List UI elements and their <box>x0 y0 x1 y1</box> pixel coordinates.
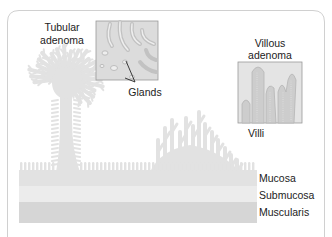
crypt <box>92 162 94 171</box>
twig <box>53 50 54 56</box>
crypt <box>144 162 146 171</box>
crypt <box>74 112 80 113</box>
crypt <box>74 120 80 121</box>
crypt <box>52 112 58 113</box>
crypt <box>192 162 194 171</box>
crypt <box>52 124 58 125</box>
crypt <box>240 162 242 171</box>
crypt <box>84 162 86 171</box>
gland <box>102 51 108 55</box>
crypt <box>100 162 102 171</box>
crypt <box>120 162 122 171</box>
crypt <box>74 164 80 165</box>
crypt <box>244 162 246 171</box>
crypt <box>74 100 80 101</box>
crypt <box>232 162 234 171</box>
crypt <box>40 162 42 171</box>
crypt <box>140 162 142 171</box>
crypt <box>52 148 58 149</box>
villous-adenoma-label: Villous <box>255 37 286 49</box>
crypt <box>52 116 58 117</box>
crypt <box>180 162 182 171</box>
crypt <box>80 162 82 171</box>
tubular-inset <box>96 21 158 82</box>
crypt <box>74 132 80 133</box>
crypt <box>124 162 126 171</box>
crypt <box>220 162 222 171</box>
crypt <box>168 162 170 171</box>
twig <box>74 52 75 58</box>
muscularis-layer <box>19 202 257 223</box>
mucosa-label: Mucosa <box>259 172 296 184</box>
crypt <box>132 162 134 171</box>
crypt <box>74 136 80 137</box>
villous-inset <box>238 62 302 123</box>
crypt <box>52 162 54 171</box>
crypt <box>188 162 190 171</box>
crypt <box>112 162 114 171</box>
twig <box>75 64 76 70</box>
crypt <box>184 162 186 171</box>
crypt <box>148 162 150 171</box>
crypt <box>52 152 58 153</box>
crypt <box>152 162 154 171</box>
crypt <box>74 144 80 145</box>
villi-label: Villi <box>248 127 264 139</box>
crypt <box>216 162 218 171</box>
crypt <box>204 162 206 171</box>
crypt <box>74 104 80 105</box>
submucosa-label: Submucosa <box>259 189 315 201</box>
crypt <box>36 162 38 171</box>
glands-label: Glands <box>128 86 161 98</box>
crypt <box>224 162 226 171</box>
polyp-core <box>52 67 80 99</box>
crypt <box>44 162 46 171</box>
crypt <box>74 156 80 157</box>
twig <box>49 73 55 74</box>
gland <box>111 66 118 71</box>
mucosa-base <box>19 170 257 186</box>
crypt <box>96 162 98 171</box>
crypt <box>52 120 58 121</box>
crypt <box>74 108 80 109</box>
crypt <box>176 162 178 171</box>
crypt <box>24 162 26 171</box>
crypt <box>52 140 58 141</box>
crypt <box>52 132 58 133</box>
crypt <box>52 136 58 137</box>
crypt <box>52 128 58 129</box>
crypt <box>116 162 118 171</box>
crypt <box>48 162 50 171</box>
crypt <box>52 100 58 101</box>
crypt <box>136 162 138 171</box>
submucosa-layer <box>19 186 257 202</box>
muscularis-label: Muscularis <box>259 206 309 218</box>
tubular-adenoma-polyp <box>29 44 104 172</box>
crypt <box>74 128 80 129</box>
villous-adenoma-label: adenoma <box>248 49 292 61</box>
adenoma-diagram: Tubular adenoma Glands Villous adenoma V… <box>0 0 332 237</box>
crypt <box>28 162 30 171</box>
gland <box>100 64 104 67</box>
twig <box>39 69 45 70</box>
crypt <box>208 162 210 171</box>
crypt <box>52 160 58 161</box>
crypt <box>52 156 58 157</box>
twig <box>83 58 84 64</box>
crypt <box>236 162 238 171</box>
crypt <box>108 162 110 171</box>
crypt <box>172 162 174 171</box>
crypt <box>212 162 214 171</box>
crypt <box>74 152 80 153</box>
crypt <box>200 162 202 171</box>
crypt <box>128 162 130 171</box>
crypt <box>88 162 90 171</box>
crypt <box>74 124 80 125</box>
tubular-adenoma-label: adenoma <box>40 34 84 46</box>
twig <box>87 86 93 87</box>
crypt <box>52 144 58 145</box>
crypt <box>52 104 58 105</box>
twig <box>70 61 71 67</box>
crypt <box>156 162 158 171</box>
crypt <box>164 162 166 171</box>
